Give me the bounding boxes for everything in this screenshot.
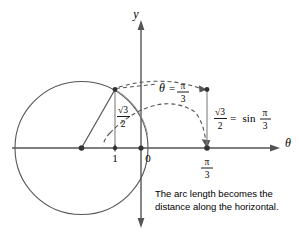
figure-caption: The arc length becomes the distance alon… [155, 188, 295, 213]
height-label-right-arg-numerator: π [263, 108, 268, 118]
height-label-right-function: sin [243, 112, 256, 124]
angle-label-theta-symbol: θ [159, 81, 165, 95]
radius-segment [82, 90, 116, 149]
height-label-left: √3 2 [117, 105, 130, 129]
sine-point-dot [205, 87, 210, 92]
circle-center-dot [79, 145, 85, 151]
y-axis-arrowhead-top [138, 20, 145, 30]
height-label-right: √3 2 = sin π 3 [214, 107, 271, 131]
tick-label-origin: 0 [145, 152, 151, 164]
tick-label-one: 1 [112, 152, 118, 164]
height-label-right-arg-denominator: 3 [263, 121, 268, 131]
height-label-right-denominator: 2 [218, 121, 223, 131]
tick-label-pi-denominator: 3 [205, 170, 210, 180]
theta-tick-dot [204, 145, 210, 151]
x-axis-label: θ [285, 136, 291, 150]
height-label-right-numerator: √3 [215, 107, 225, 117]
x-axis-arrowhead-right [270, 145, 280, 152]
angle-label-denominator: 3 [181, 94, 186, 104]
angle-label-equals: = [169, 82, 175, 94]
tick-label-pi-numerator: π [205, 157, 210, 167]
angle-label-theta: θ = π 3 [159, 81, 189, 104]
circle-point-dot [113, 87, 118, 92]
height-label-right-equals: = [230, 112, 236, 124]
y-axis-label: y [132, 7, 139, 21]
unit-point-dot [113, 146, 117, 150]
angle-label-numerator: π [181, 81, 186, 91]
trigonometry-diagram: y θ 1 0 π 3 θ = π 3 √3 2 √3 [0, 0, 299, 239]
height-label-left-denominator: 2 [121, 119, 126, 129]
x-axis [12, 145, 280, 152]
tick-label-pi-over-three: π 3 [201, 157, 213, 180]
height-label-left-numerator: √3 [118, 105, 128, 115]
y-axis-arrowhead-bottom [138, 218, 145, 228]
dashed-arc-length-tail [103, 133, 110, 145]
origin-dot [138, 145, 143, 150]
